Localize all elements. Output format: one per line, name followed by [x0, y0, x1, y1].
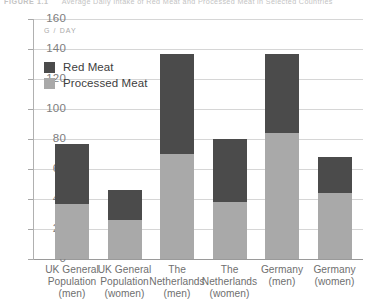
bar-group[interactable]	[213, 139, 247, 259]
x-axis-label-line: (women)	[296, 276, 368, 288]
figure-container: FIGURE 1.1Average Daily Intake of Red Me…	[0, 0, 368, 304]
bar-group[interactable]	[160, 54, 194, 260]
bar-segment-red-meat[interactable]	[265, 54, 299, 134]
bar-segment-red-meat[interactable]	[160, 54, 194, 155]
bar-segment-red-meat[interactable]	[55, 144, 89, 204]
chart-plot-area: 160140120100806040200 G / DAY Red Meat P…	[0, 0, 368, 304]
bar-segment-processed-meat[interactable]	[265, 133, 299, 259]
x-axis-label-line: Germany	[296, 264, 368, 276]
bar-group[interactable]	[318, 157, 352, 259]
bar-group[interactable]	[108, 190, 142, 259]
bar-segment-processed-meat[interactable]	[108, 220, 142, 259]
bar-segment-processed-meat[interactable]	[318, 193, 352, 259]
bar-segment-processed-meat[interactable]	[213, 202, 247, 259]
x-axis-label: Germany(women)	[296, 264, 368, 288]
bar-segment-processed-meat[interactable]	[160, 154, 194, 259]
bars-layer	[33, 0, 363, 304]
bar-segment-red-meat[interactable]	[318, 157, 352, 193]
bar-segment-red-meat[interactable]	[108, 190, 142, 220]
x-axis-label-line: (women)	[191, 288, 269, 300]
bar-segment-red-meat[interactable]	[213, 139, 247, 202]
bar-segment-processed-meat[interactable]	[55, 204, 89, 260]
bar-group[interactable]	[55, 144, 89, 260]
bar-group[interactable]	[265, 54, 299, 260]
